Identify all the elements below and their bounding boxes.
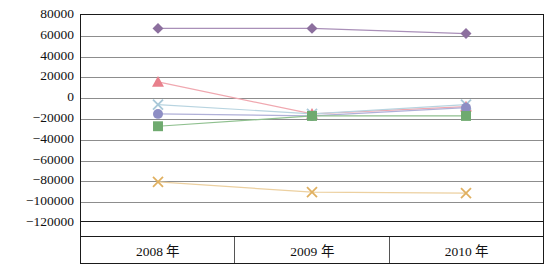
y-axis-tick-label: −80000: [33, 173, 74, 187]
x-axis-category-3: 2010 年: [390, 237, 543, 263]
data-point-square: [307, 111, 317, 121]
y-axis-tick-label: 0: [67, 90, 74, 104]
series-layer: [81, 15, 543, 221]
y-axis-tick-label: −60000: [33, 153, 74, 167]
data-point-square: [461, 111, 471, 121]
plot-area: [80, 14, 544, 222]
x-axis-category-row: 2008 年2009 年2010 年: [80, 236, 544, 264]
y-axis-tick-label: 20000: [40, 69, 74, 83]
series-1: [153, 23, 472, 39]
y-axis-tick-label: 40000: [40, 49, 74, 63]
data-point-diamond: [307, 23, 318, 34]
x-axis-category-2: 2009 年: [235, 237, 389, 263]
data-point-square: [153, 121, 163, 131]
y-axis-tick-label: −20000: [33, 111, 74, 125]
y-axis-tick-label: −40000: [33, 132, 74, 146]
y-axis-tick-label: 60000: [40, 28, 74, 42]
y-axis-tick-label: −120000: [26, 215, 74, 229]
line-chart: 800006000040000200000−20000−40000−60000−…: [0, 0, 547, 265]
data-point-circle: [153, 109, 163, 119]
series-6: [153, 177, 471, 198]
data-point-diamond: [153, 23, 164, 34]
y-axis-tick-label: 80000: [40, 7, 74, 21]
y-axis: 800006000040000200000−20000−40000−60000−…: [0, 0, 78, 236]
data-point-diamond: [461, 28, 472, 39]
x-axis-category-1: 2008 年: [81, 237, 235, 263]
axis-gap-band: [80, 222, 544, 236]
data-point-triangle: [152, 76, 164, 87]
y-axis-tick-label: −100000: [26, 194, 74, 208]
